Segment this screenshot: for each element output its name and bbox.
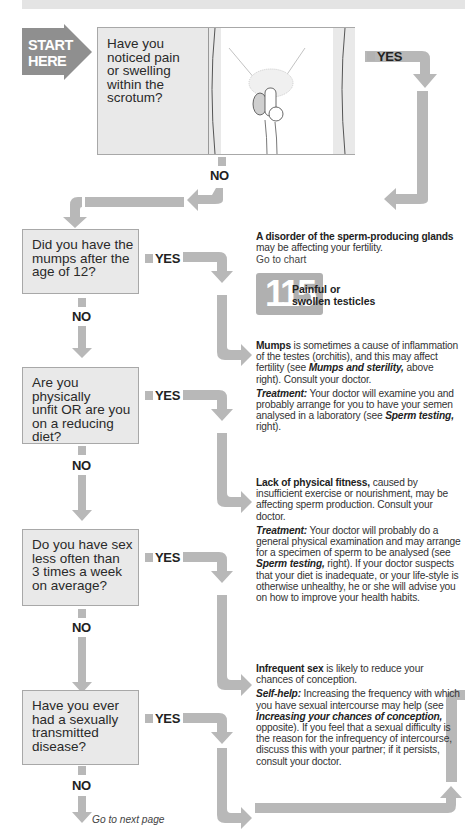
question-text: Have you ever had a sexually transmitted… — [32, 699, 119, 753]
q3-no-label[interactable]: NO — [72, 458, 91, 473]
q2-no-label[interactable]: NO — [72, 309, 91, 324]
question-box-scrotum[interactable]: Have you noticed pain or swelling within… — [97, 27, 355, 155]
question-box-mumps[interactable]: Did you have the mumps after the age of … — [22, 229, 139, 294]
q5-yes-label[interactable]: YES — [155, 711, 180, 726]
question-box-fitness[interactable]: Are you physically unfit OR are you on a… — [22, 367, 139, 444]
anatomy-illustration — [209, 28, 355, 154]
q4-yes-label[interactable]: YES — [155, 550, 180, 565]
q2-yes-label[interactable]: YES — [155, 251, 180, 266]
question-box-frequency[interactable]: Do you have sex less often than 3 times … — [22, 529, 139, 606]
answer-infrequent-sex: Infrequent sex is likely to reduce your … — [256, 663, 461, 770]
question-text: Do you have sex less often than 3 times … — [32, 538, 133, 592]
q1-no-label[interactable]: NO — [210, 168, 229, 183]
question-box-std[interactable]: Have you ever had a sexually transmitted… — [22, 690, 139, 765]
answer-sperm-glands: A disorder of the sperm-producing glands… — [256, 231, 461, 253]
q4-no-label[interactable]: NO — [72, 620, 91, 635]
answer-fitness: Lack of physical fitness, caused by insu… — [256, 477, 461, 606]
go-to-next-page-link[interactable]: Go to next page — [92, 814, 165, 825]
start-here-label: START HERE — [28, 37, 73, 69]
go-to-chart-text: Go to chart — [256, 254, 306, 265]
question-text: Have you noticed pain or swelling within… — [107, 37, 180, 105]
q1-yes-label[interactable]: YES — [377, 49, 402, 64]
answer-mumps: Mumps is sometimes a cause of inflammati… — [256, 340, 461, 436]
q5-no-label[interactable]: NO — [72, 778, 91, 793]
question-text: Are you physically unfit OR are you on a… — [32, 376, 138, 444]
question-text: Did you have the mumps after the age of … — [32, 238, 133, 279]
q3-yes-label[interactable]: YES — [155, 388, 180, 403]
chart-title[interactable]: Painful or swollen testicles — [292, 283, 375, 307]
yes-marker — [367, 52, 375, 61]
